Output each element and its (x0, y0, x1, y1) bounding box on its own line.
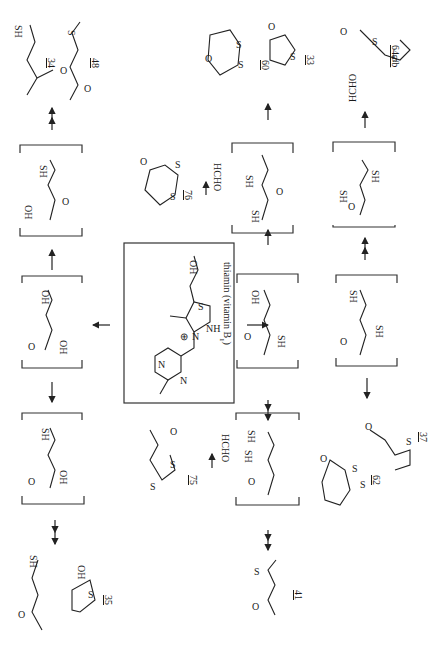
svg-text:OH: OH (76, 565, 87, 579)
svg-text:OH: OH (58, 470, 69, 484)
reagent-hcho: HCHO (347, 74, 358, 102)
svg-text:O: O (84, 83, 91, 94)
svg-text:O: O (348, 201, 355, 212)
svg-text:OH: OH (58, 340, 69, 354)
thiamin-structure: S N ⊕ N N NH OH thiamin (vitamin B1) (124, 243, 234, 403)
svg-text:SH: SH (28, 555, 39, 568)
svg-text:S: S (254, 566, 260, 577)
svg-text:SH: SH (243, 450, 254, 463)
svg-text:O: O (140, 156, 147, 167)
svg-text:SH: SH (40, 428, 51, 441)
svg-text:OH: OH (23, 205, 34, 219)
svg-text:SH: SH (13, 25, 24, 38)
compound-75: 75 (188, 475, 199, 485)
svg-text:OH: OH (40, 290, 51, 304)
svg-text:SH: SH (374, 325, 385, 338)
svg-text:SH: SH (250, 210, 261, 223)
svg-text:SH: SH (348, 290, 359, 303)
svg-text:S: S (150, 481, 156, 492)
svg-text:S: S (170, 459, 176, 470)
compound-35: 35 (103, 595, 114, 605)
atom-labels: SH O S O SH OH O OH OH O SH OH O SH OH S… (13, 21, 412, 620)
svg-text:O: O (340, 336, 347, 347)
svg-text:O: O (252, 601, 259, 612)
svg-text:OH: OH (250, 290, 261, 304)
svg-text:O: O (205, 53, 212, 64)
svg-text:O: O (340, 26, 347, 37)
svg-text:S: S (66, 30, 77, 36)
svg-text:O: O (248, 476, 255, 487)
compound-76: 76 (183, 190, 194, 200)
svg-text:OH: OH (188, 260, 199, 274)
compound-34: 34 (46, 58, 57, 68)
svg-text:N: N (180, 375, 187, 386)
svg-text:S: S (290, 51, 296, 62)
svg-text:O: O (28, 341, 35, 352)
svg-text:S: S (175, 159, 181, 170)
svg-text:O: O (244, 331, 251, 342)
svg-text:S: S (372, 36, 378, 47)
reagent-hcho: HCHO (212, 163, 223, 191)
svg-text:O: O (170, 426, 177, 437)
svg-text:O: O (276, 186, 283, 197)
svg-text:SH: SH (38, 165, 49, 178)
reaction-scheme: S N ⊕ N N NH OH thiamin (vitamin B1) (0, 0, 438, 646)
svg-text:S: S (236, 39, 242, 50)
svg-text:SH: SH (370, 170, 381, 183)
svg-text:O: O (28, 476, 35, 487)
svg-text:O: O (268, 21, 275, 32)
svg-text:S: S (352, 463, 358, 474)
svg-text:S: S (406, 436, 412, 447)
svg-text:N: N (158, 359, 165, 370)
compound-60: 60 (260, 60, 271, 70)
svg-text:S: S (198, 301, 204, 312)
svg-text:SH: SH (276, 335, 287, 348)
svg-text:⊕: ⊕ (180, 331, 188, 342)
svg-text:O: O (60, 65, 67, 76)
svg-text:S: S (360, 479, 366, 490)
compound-37: 37 (418, 432, 429, 442)
compound-64ab: 64a/b (390, 45, 401, 67)
svg-text:S: S (88, 589, 94, 600)
compound-62: 62 (371, 475, 382, 485)
svg-text:NH: NH (206, 323, 220, 334)
svg-text:O: O (365, 421, 372, 432)
svg-text:SH: SH (246, 430, 257, 443)
svg-text:SH: SH (244, 175, 255, 188)
reagent-hcho: HCHO (220, 434, 231, 462)
svg-text:S: S (238, 59, 244, 70)
svg-text:N: N (192, 331, 199, 342)
svg-text:O: O (18, 609, 25, 620)
compound-33: 33 (305, 55, 316, 65)
svg-text:S: S (170, 191, 176, 202)
svg-text:O: O (320, 453, 327, 464)
svg-text:O: O (62, 196, 69, 207)
compound-41: 41 (293, 590, 304, 600)
compound-48: 48 (90, 58, 101, 68)
